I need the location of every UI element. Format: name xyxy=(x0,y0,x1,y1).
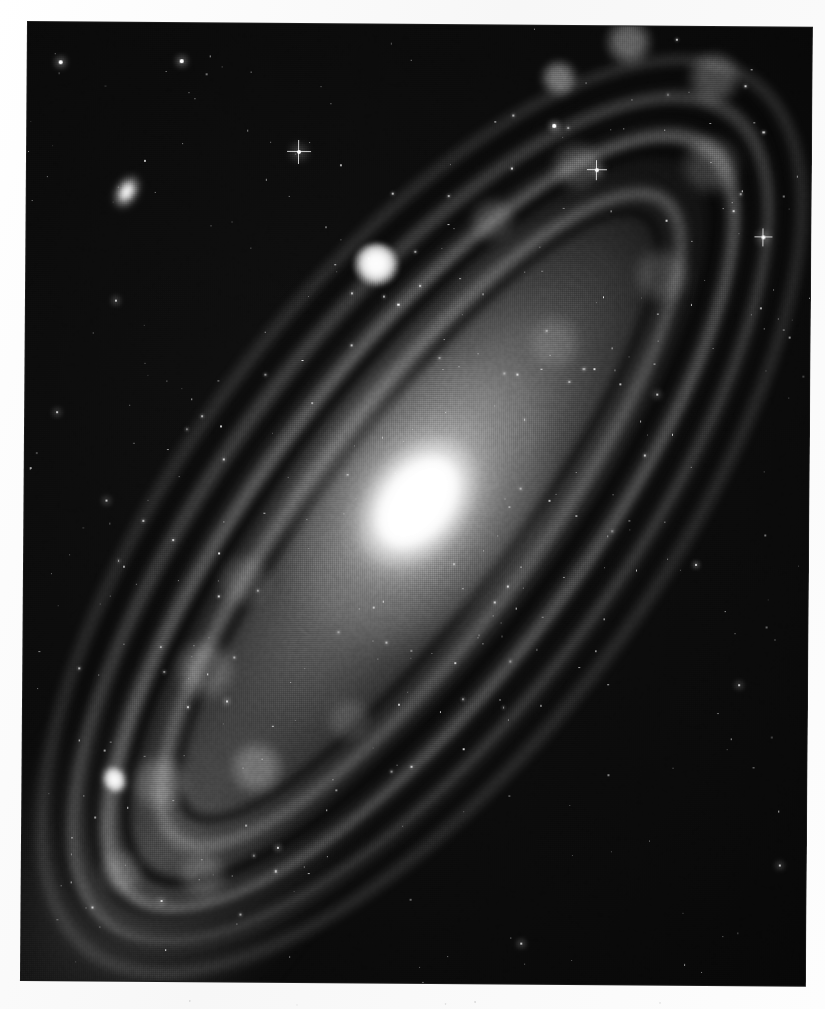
field-star xyxy=(760,308,762,310)
field-star xyxy=(236,924,237,925)
field-star xyxy=(717,713,719,715)
field-star xyxy=(308,873,309,874)
field-star xyxy=(603,297,605,299)
field-star xyxy=(440,712,441,713)
field-star xyxy=(576,515,578,517)
field-star xyxy=(123,643,124,644)
field-star xyxy=(330,103,331,104)
field-star xyxy=(221,66,222,67)
field-star xyxy=(99,603,100,604)
field-star xyxy=(750,314,751,315)
field-star xyxy=(763,471,764,472)
field-star xyxy=(94,817,96,819)
field-star xyxy=(563,577,564,578)
field-star xyxy=(511,167,513,169)
field-star xyxy=(666,220,668,222)
field-star xyxy=(398,704,400,706)
field-star xyxy=(36,452,38,454)
field-star xyxy=(789,337,791,339)
field-star xyxy=(569,805,570,806)
field-star xyxy=(181,388,182,389)
field-star xyxy=(290,682,291,683)
caption-strip xyxy=(21,953,805,986)
field-star xyxy=(392,193,394,195)
field-star xyxy=(251,247,252,248)
field-star xyxy=(447,195,449,197)
field-star xyxy=(463,748,465,750)
field-star xyxy=(264,374,266,376)
field-star xyxy=(482,294,484,296)
bright-star xyxy=(762,235,766,239)
field-star xyxy=(211,225,212,226)
field-star xyxy=(391,771,393,773)
field-star xyxy=(629,520,630,521)
field-star xyxy=(791,320,792,321)
field-star xyxy=(676,38,678,40)
scan-page xyxy=(0,0,825,1009)
field-star xyxy=(499,699,500,700)
field-star xyxy=(731,202,732,203)
field-star xyxy=(608,775,609,776)
field-star xyxy=(442,369,443,370)
plate-wrapper xyxy=(21,22,812,986)
field-star xyxy=(336,271,337,272)
field-star xyxy=(383,295,385,297)
field-star xyxy=(494,601,496,603)
field-star xyxy=(293,891,294,892)
field-star xyxy=(397,304,399,306)
field-star xyxy=(783,196,784,197)
field-star xyxy=(494,121,495,122)
field-star xyxy=(594,368,596,370)
field-star xyxy=(724,611,725,612)
field-star xyxy=(607,535,608,536)
field-star xyxy=(382,437,383,438)
field-star xyxy=(274,870,276,872)
field-star xyxy=(256,590,258,592)
field-star xyxy=(373,607,375,609)
field-star xyxy=(343,513,344,514)
field-star xyxy=(178,580,179,581)
field-star xyxy=(539,246,540,247)
field-star xyxy=(734,633,735,634)
field-star xyxy=(751,69,752,70)
andromeda-photographic-plate xyxy=(21,22,812,986)
field-star xyxy=(163,671,165,673)
field-star xyxy=(549,500,551,502)
field-star xyxy=(332,779,333,780)
bright-star xyxy=(553,124,556,127)
field-star xyxy=(57,919,58,920)
m32-companion-galaxy xyxy=(353,242,399,286)
bright-star xyxy=(180,59,183,62)
field-star xyxy=(462,698,464,700)
field-star xyxy=(99,926,100,927)
field-star xyxy=(512,114,514,116)
field-star xyxy=(218,580,219,581)
field-star xyxy=(239,913,241,915)
field-star xyxy=(614,370,615,371)
field-star xyxy=(583,368,585,370)
field-star xyxy=(378,519,379,520)
field-star xyxy=(390,43,391,44)
field-star xyxy=(306,519,307,520)
field-star xyxy=(104,750,105,751)
field-star xyxy=(726,749,727,750)
field-star xyxy=(30,121,31,122)
field-star xyxy=(754,122,755,123)
field-star xyxy=(144,160,145,161)
field-star xyxy=(745,85,747,87)
field-star xyxy=(667,559,668,560)
field-star xyxy=(540,368,542,370)
field-star xyxy=(397,764,398,765)
field-star xyxy=(454,662,456,664)
field-star xyxy=(410,658,411,659)
field-star xyxy=(722,936,723,937)
field-star xyxy=(710,123,711,124)
field-star xyxy=(325,226,326,227)
field-star xyxy=(307,296,308,297)
field-star xyxy=(738,233,739,234)
field-star xyxy=(129,405,130,406)
field-star xyxy=(340,165,341,166)
field-star xyxy=(320,86,321,87)
field-star xyxy=(71,837,73,839)
field-star xyxy=(403,440,404,441)
